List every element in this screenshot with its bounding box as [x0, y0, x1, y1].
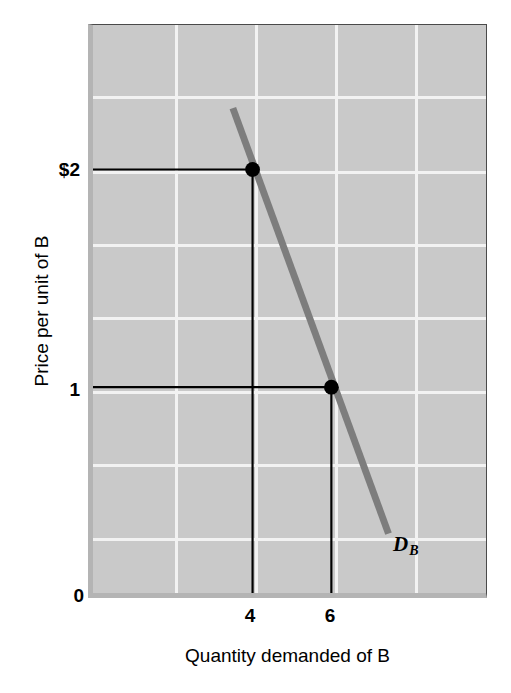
y-axis-title: Price per unit of B	[31, 171, 53, 451]
demand-curve-label-subscript: B	[409, 543, 418, 558]
xtick-label-quantity-6: 6	[300, 606, 360, 625]
demand-curve-label: DB	[393, 534, 418, 555]
data-point-marker	[245, 162, 260, 177]
demand-curve-chart: DB $2 1 0 4 6 Price per unit of B Quanti…	[0, 0, 511, 693]
x-axis-title: Quantity demanded of B	[88, 645, 487, 667]
plot-svg-overlay	[93, 25, 486, 593]
xtick-wrap-quantity-4: 4	[220, 606, 280, 630]
origin-label: 0	[60, 586, 84, 605]
xtick-wrap-quantity-6: 6	[300, 606, 360, 630]
data-point-marker	[324, 380, 339, 395]
ytick-label-price-1: 1	[69, 380, 80, 399]
ytick-label-price-2: $2	[59, 160, 80, 179]
plot-area	[88, 24, 487, 598]
demand-curve-label-text: D	[393, 532, 408, 556]
xtick-label-quantity-4: 4	[220, 606, 280, 625]
